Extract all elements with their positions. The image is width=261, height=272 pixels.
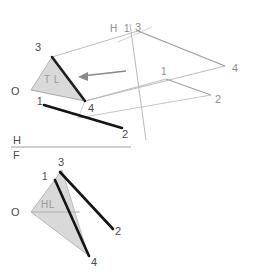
label-fold-1: 1 (124, 23, 130, 34)
technical-drawing-container: 3 O 4 T L H 1 3 4 1 2 1 2 H F (0, 0, 261, 272)
label-upper-line-2: 2 (122, 128, 128, 140)
label-plane-vertex-1: 1 (161, 66, 167, 77)
label-lower-vertex-3: 3 (58, 156, 64, 168)
label-divider-f: F (13, 149, 20, 161)
label-plane-vertex-4: 4 (232, 62, 238, 74)
label-upper-vertex-4: 4 (88, 102, 94, 114)
label-true-length: T L (44, 74, 60, 85)
label-lower-vertex-2: 2 (115, 225, 121, 237)
label-fold-h: H (110, 23, 117, 34)
label-plane-vertex-2: 2 (215, 93, 221, 105)
label-lower-vertex-O: O (11, 206, 20, 218)
label-upper-line-1: 1 (37, 96, 43, 107)
label-upper-vertex-O: O (11, 85, 20, 97)
label-horizontal-line: HL (41, 199, 55, 210)
label-divider-h: H (13, 134, 21, 146)
label-plane-vertex-3: 3 (135, 21, 141, 33)
label-lower-vertex-4: 4 (91, 256, 97, 268)
geometry-canvas: 3 O 4 T L H 1 3 4 1 2 1 2 H F (0, 0, 261, 272)
label-lower-vertex-1: 1 (42, 171, 48, 182)
label-upper-vertex-3: 3 (35, 41, 41, 53)
